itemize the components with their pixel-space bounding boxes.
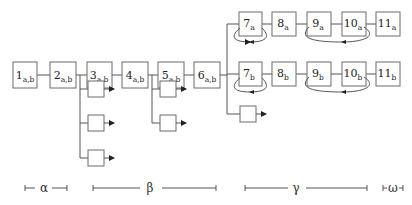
stage-4: 4a,b <box>122 62 148 88</box>
stage-11a: 11a <box>376 12 400 36</box>
phase-omega: ω <box>383 181 403 195</box>
stage-9a: 9a <box>307 12 331 36</box>
phase-scale: α β γ ω <box>25 181 403 195</box>
stage-10b: 10b <box>342 62 366 86</box>
process-diagram: 1a,b 2a,b 3a,b 4a,b 5a,b 6a,b <box>0 0 412 205</box>
branch-a: 7a 8a 9a 10a 11a <box>234 12 400 44</box>
svg-text:ω: ω <box>388 181 398 195</box>
stage-10a: 10a <box>342 12 366 36</box>
branch-b: 7b 8b 9b 10b 11b <box>234 62 400 94</box>
svg-text:α: α <box>40 181 48 195</box>
stage-7b: 7b <box>239 62 262 86</box>
stage-6: 6a,b <box>194 62 220 88</box>
stage-8b: 8b <box>272 62 296 86</box>
phase-gamma: γ <box>245 181 367 195</box>
svg-text:γ: γ <box>292 181 299 195</box>
phase-alpha: α <box>25 181 67 195</box>
side-outputs-3 <box>80 75 114 166</box>
stage-7a: 7a <box>239 12 262 36</box>
stage-9b: 9b <box>307 62 331 86</box>
stage-11b: 11b <box>376 62 400 86</box>
phase-beta: β <box>93 181 216 195</box>
svg-text:β: β <box>147 181 154 195</box>
stage-1: 1a,b <box>13 62 37 88</box>
stage-2: 2a,b <box>50 62 76 88</box>
stage-8a: 8a <box>272 12 296 36</box>
